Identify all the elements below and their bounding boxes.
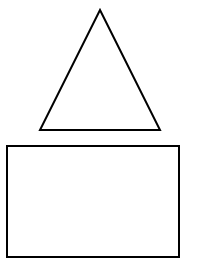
figure-background <box>0 0 217 268</box>
figure-canvas <box>0 0 217 268</box>
shapes-drawing <box>0 0 217 268</box>
